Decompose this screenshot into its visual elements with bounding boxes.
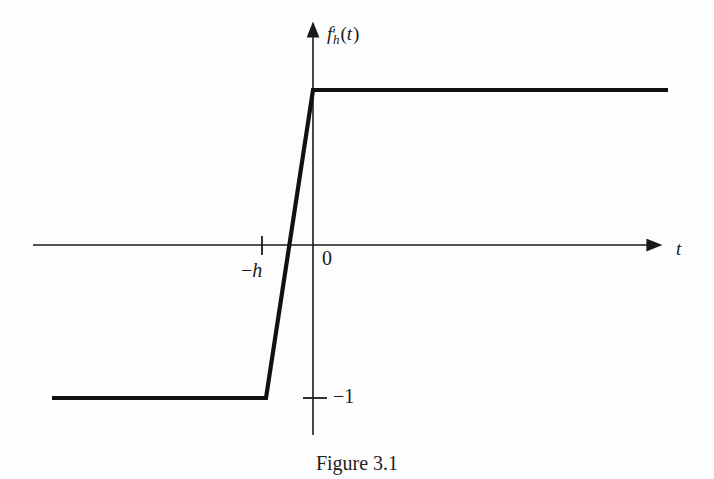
- y-axis-label-paren-close: ): [353, 23, 359, 44]
- origin-label: 0: [322, 247, 332, 270]
- figure-plot: [0, 0, 714, 479]
- y-axis-label: f′h(t): [327, 24, 359, 46]
- h-variable: h: [252, 259, 262, 281]
- y-axis-label-argument: t: [347, 23, 352, 44]
- y-tick-label-minus-one: −1: [333, 385, 354, 408]
- figure-caption: Figure 3.1: [0, 452, 714, 475]
- figure-page: f′h(t) t 0 −h −1 Figure 3.1: [0, 0, 714, 479]
- y-axis-label-subscript: h: [333, 32, 340, 47]
- x-axis-label: t: [676, 238, 681, 260]
- x-tick-label-minus-h: −h: [241, 259, 262, 282]
- minus-sign: −: [241, 259, 252, 281]
- function-curve: [52, 90, 668, 398]
